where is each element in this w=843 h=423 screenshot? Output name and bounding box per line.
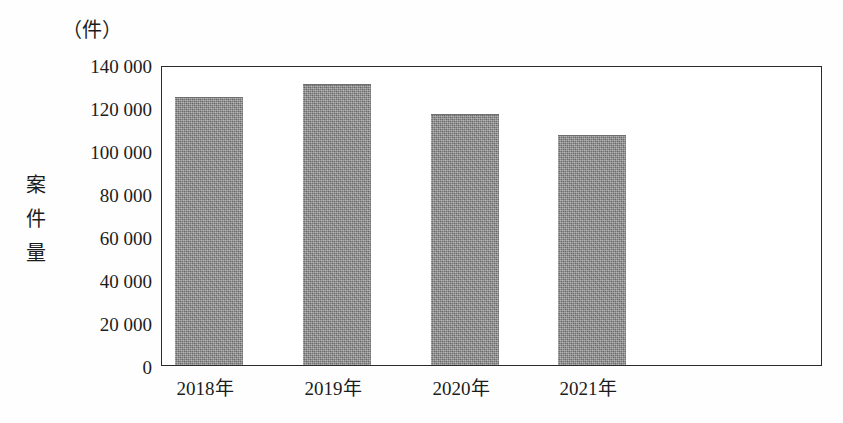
y-tick-label-60000: 60 000 xyxy=(52,229,152,248)
x-tick-label-2021: 2021年 xyxy=(518,378,658,400)
bar-2019 xyxy=(303,84,371,365)
y-tick-label-40000: 40 000 xyxy=(52,272,152,291)
y-tick-label-80000: 80 000 xyxy=(52,186,152,205)
bar-2018 xyxy=(175,97,243,365)
bar-chart-figure: （件） 案 件 量 140 000 120 000 100 000 80 000… xyxy=(0,0,843,423)
y-tick-label-100000: 100 000 xyxy=(52,143,152,162)
y-axis-tick-labels: 140 000 120 000 100 000 80 000 60 000 40… xyxy=(48,0,152,423)
y-axis-title: 案 件 量 xyxy=(22,168,50,270)
y-axis-title-char-2: 件 xyxy=(22,202,50,236)
bar-2021 xyxy=(558,135,626,365)
x-tick-label-2020: 2020年 xyxy=(391,378,531,400)
y-tick-label-120000: 120 000 xyxy=(52,100,152,119)
y-tick-label-140000: 140 000 xyxy=(52,57,152,76)
y-tick-label-0: 0 xyxy=(52,358,152,377)
bar-2020 xyxy=(431,114,499,365)
x-tick-label-2018: 2018年 xyxy=(135,378,275,400)
y-axis-title-char-3: 量 xyxy=(22,236,50,270)
y-axis-title-char-1: 案 xyxy=(22,168,50,202)
x-tick-label-2019: 2019年 xyxy=(263,378,403,400)
plot-area xyxy=(161,66,822,366)
y-tick-label-20000: 20 000 xyxy=(52,315,152,334)
